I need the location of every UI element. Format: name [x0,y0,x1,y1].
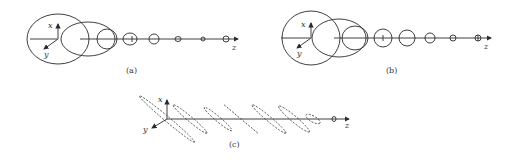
caption-c: (c) [229,140,240,149]
x-axis-label: x [48,21,53,30]
z-axis-label: z [344,121,350,130]
x-axis-label: x [158,95,163,104]
z-axis-label: z [231,43,237,52]
caption-a: (a) [126,66,137,75]
y-axis-label: y [142,125,148,134]
panel-a: x y z (a) [27,14,238,75]
y-axis-label: y [43,50,49,59]
caption-b: (b) [386,66,397,75]
diagram-canvas: x y z (a) x y z (b) x y z [0,0,511,160]
z-axis-label: z [483,42,489,51]
x-axis-label: x [301,20,306,29]
y-axis-label: y [296,49,302,58]
panel-c: x y z (c) [138,94,350,149]
panel-b: x y z (b) [281,11,491,75]
